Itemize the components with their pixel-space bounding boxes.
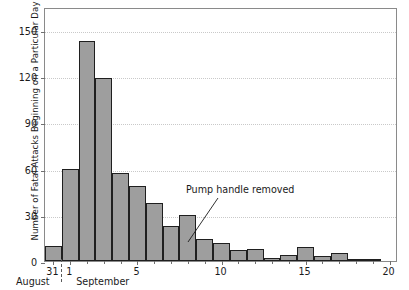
- x-axis-minor-tick: [356, 261, 357, 264]
- month-label: September: [76, 276, 129, 287]
- x-axis-tick-label: 1: [66, 266, 72, 277]
- plot-area: [44, 8, 397, 262]
- bar: [95, 78, 112, 261]
- x-axis-minor-tick: [272, 261, 273, 264]
- x-axis-minor-tick: [171, 261, 172, 264]
- y-axis-tick-label: 30: [0, 210, 37, 221]
- chart-figure: Number of Fatal Attacks Beginning on a P…: [0, 0, 409, 290]
- x-axis-minor-tick: [238, 261, 239, 264]
- bar: [129, 186, 146, 261]
- x-axis-minor-tick: [322, 261, 323, 264]
- x-axis-minor-tick: [154, 261, 155, 264]
- bar: [163, 226, 180, 261]
- bar-series: [45, 9, 396, 261]
- y-axis-tick-label: 90: [0, 118, 37, 129]
- x-axis-minor-tick: [339, 261, 340, 264]
- bar: [331, 253, 348, 261]
- x-axis-minor-tick: [390, 261, 391, 264]
- month-separator: [61, 259, 62, 282]
- x-axis-minor-tick: [70, 261, 71, 264]
- y-axis-tick-label: 120: [0, 72, 37, 83]
- bar: [45, 246, 62, 261]
- bar: [146, 203, 163, 261]
- x-axis-minor-tick: [306, 261, 307, 264]
- x-axis-minor-tick: [53, 261, 54, 264]
- month-label: August: [16, 276, 50, 287]
- x-axis-minor-tick: [205, 261, 206, 264]
- x-axis-tick-label: 5: [133, 266, 139, 277]
- bar: [112, 173, 129, 261]
- x-axis-minor-tick: [121, 261, 122, 264]
- x-axis-tick-label: 10: [214, 266, 226, 277]
- x-axis-tick-label: 15: [298, 266, 310, 277]
- x-axis-minor-tick: [255, 261, 256, 264]
- bar: [297, 247, 314, 261]
- x-axis-minor-tick: [87, 261, 88, 264]
- x-axis-minor-tick: [137, 261, 138, 264]
- x-axis-minor-tick: [222, 261, 223, 264]
- annotation-label: Pump handle removed: [186, 184, 294, 195]
- bar: [213, 243, 230, 261]
- x-axis-tick-label: 20: [382, 266, 394, 277]
- y-axis-tick-label: 150: [0, 26, 37, 37]
- y-axis-tick: [41, 263, 45, 264]
- x-axis-minor-tick: [104, 261, 105, 264]
- bar: [230, 250, 247, 261]
- x-axis-minor-tick: [188, 261, 189, 264]
- x-axis-minor-tick: [289, 261, 290, 264]
- y-axis-tick-label: 60: [0, 164, 37, 175]
- x-axis-minor-tick: [373, 261, 374, 264]
- bar: [247, 249, 264, 261]
- bar: [62, 169, 79, 261]
- bar: [196, 239, 213, 261]
- bar: [79, 41, 96, 261]
- y-axis-tick-label: 0: [0, 257, 37, 268]
- annotation-leader-line: [186, 198, 220, 242]
